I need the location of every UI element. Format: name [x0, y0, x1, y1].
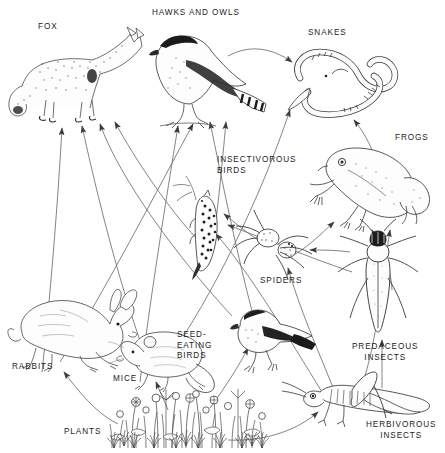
label-frogs: FROGS — [395, 133, 429, 144]
link-predaceous-to-spiders — [310, 250, 350, 252]
label-herbivorous-insects: HERBIVOROUS INSECTS — [366, 420, 436, 441]
herbivorous-insect-illustration — [282, 372, 430, 427]
link-frogs-to-snakes — [354, 120, 372, 150]
link-insectbirds-to-fox — [115, 122, 196, 238]
rabbit-illustration — [8, 289, 137, 372]
seed-eating-bird-illustration — [230, 310, 316, 373]
insectivorous-bird-illustration — [173, 176, 217, 280]
diagram-canvas — [0, 0, 445, 453]
label-fox: FOX — [38, 22, 58, 33]
link-hawks-to-snakes — [228, 49, 292, 62]
link-plants-to-rabbits — [64, 372, 118, 424]
predaceous-insect-illustration — [338, 219, 418, 332]
link-group — [42, 49, 392, 440]
plants-illustration — [107, 389, 269, 448]
label-rabbits: RABBITS — [12, 362, 53, 373]
label-seed-eating-birds: SEED- EATING BIRDS — [177, 330, 212, 362]
snake-illustration — [288, 52, 395, 115]
label-hawks-and-owls: HAWKS AND OWLS — [152, 8, 240, 19]
label-plants: PLANTS — [64, 427, 101, 438]
label-predaceous-insects: PREDACEOUS INSECTS — [352, 342, 418, 363]
food-web-diagram: FOX HAWKS AND OWLS SNAKES FROGS INSECTIV… — [0, 0, 445, 453]
label-mice: MICE — [113, 374, 137, 385]
fox-illustration — [9, 27, 144, 122]
frog-illustration — [310, 148, 430, 232]
label-spiders: SPIDERS — [260, 276, 302, 287]
label-insectivorous-birds: INSECTIVOROUS BIRDS — [217, 155, 296, 176]
label-snakes: SNAKES — [308, 28, 347, 39]
link-spiders-to-insectbirds — [224, 214, 258, 240]
